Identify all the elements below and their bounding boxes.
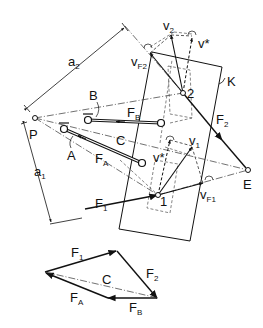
label-b: B <box>89 88 98 103</box>
label-v2: v2 <box>163 18 175 35</box>
point-e <box>246 168 251 173</box>
polygon-label-f1: F1 <box>71 245 84 262</box>
velocity-vf2 <box>150 53 183 93</box>
label-e: E <box>243 177 252 192</box>
label-joint-1: 1 <box>160 194 167 209</box>
point-p <box>33 116 38 121</box>
label-f2: F2 <box>216 112 229 129</box>
label-fb: FB <box>127 105 140 122</box>
label-fa: FA <box>95 151 109 168</box>
force-f2-line <box>222 140 246 168</box>
label-a2: a2 <box>68 54 80 71</box>
v2-projection <box>150 35 171 53</box>
velocity-v2 <box>171 35 183 93</box>
label-vf1: vF1 <box>200 187 216 204</box>
label-joint-2: 2 <box>187 86 194 101</box>
polygon-label-fb: FB <box>129 300 142 317</box>
label-k: K <box>227 74 236 89</box>
polygon-label-f2: F2 <box>146 266 159 283</box>
a-leader <box>70 136 73 148</box>
label-vf2: vF2 <box>131 54 147 71</box>
label-vstar-top: v* <box>198 36 210 51</box>
polygon-label-c: C <box>102 272 111 287</box>
b-leader <box>96 102 99 117</box>
mechanism-diagram: P E 2 1 a2 a1 B A C K FB FA F1 F2 v2 v* … <box>0 0 263 328</box>
link-b <box>83 114 165 127</box>
label-a1: a1 <box>34 164 46 181</box>
label-f1: F1 <box>95 196 108 213</box>
label-vstar-mid: v* <box>153 150 165 165</box>
point-2 <box>181 91 186 96</box>
v2-vstar-link <box>171 35 192 36</box>
body-k-outline <box>119 52 222 241</box>
v1-projection <box>192 147 203 183</box>
label-a: A <box>67 148 76 163</box>
label-p: P <box>29 127 38 142</box>
label-v1: v1 <box>189 133 201 150</box>
label-c: C <box>116 133 125 148</box>
polygon-label-fa: FA <box>70 290 84 307</box>
